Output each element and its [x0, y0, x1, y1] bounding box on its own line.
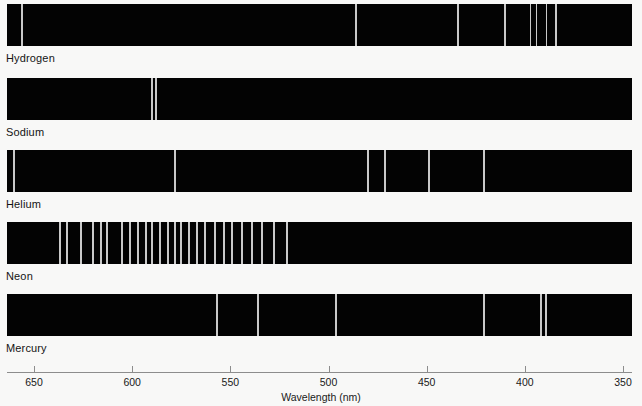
- spectral-line: [483, 150, 485, 192]
- axis-line: [7, 372, 632, 373]
- spectral-line: [257, 294, 259, 336]
- spectrum-label-hydrogen: Hydrogen: [6, 52, 55, 64]
- spectral-line: [13, 150, 15, 192]
- axis-tick-label: 450: [418, 376, 436, 388]
- spectral-line: [180, 222, 182, 264]
- spectrum-label-sodium: Sodium: [6, 126, 44, 138]
- axis-tick-label: 350: [614, 376, 632, 388]
- spectral-line: [214, 222, 216, 264]
- spectral-line: [241, 222, 243, 264]
- spectral-line: [174, 222, 176, 264]
- spectral-line: [129, 222, 131, 264]
- spectral-line: [261, 222, 263, 264]
- spectral-line: [231, 222, 233, 264]
- spectral-line: [174, 150, 176, 192]
- spectral-line: [204, 222, 206, 264]
- spectral-line: [188, 222, 190, 264]
- axis-tick-label: 400: [516, 376, 534, 388]
- spectral-line: [167, 222, 169, 264]
- axis-tick-label: 600: [123, 376, 141, 388]
- spectral-line: [367, 150, 369, 192]
- spectral-line: [159, 222, 161, 264]
- spectrum-bar-mercury: [7, 294, 632, 336]
- spectral-line: [151, 222, 153, 264]
- spectrum-label-mercury: Mercury: [6, 342, 47, 354]
- spectral-line: [540, 294, 542, 336]
- spectrum-bar-sodium: [7, 78, 632, 120]
- spectral-line: [504, 4, 506, 46]
- wavelength-axis: 650600550500450400350 Wavelength (nm): [0, 372, 642, 406]
- axis-tick: [34, 366, 35, 372]
- spectral-line: [80, 222, 82, 264]
- spectral-line: [545, 294, 547, 336]
- axis-title: Wavelength (nm): [0, 391, 642, 403]
- spectral-line: [335, 294, 337, 336]
- spectral-line: [555, 4, 557, 46]
- spectrum-bar-hydrogen: [7, 4, 632, 46]
- spectral-line: [66, 222, 68, 264]
- spectrum-bar-neon: [7, 222, 632, 264]
- spectral-line: [121, 222, 123, 264]
- spectrum-label-helium: Helium: [6, 198, 41, 210]
- spectral-line: [216, 294, 218, 336]
- spectral-line: [428, 150, 430, 192]
- axis-tick-label: 550: [222, 376, 240, 388]
- spectral-line: [223, 222, 225, 264]
- axis-tick: [427, 366, 428, 372]
- axis-tick: [525, 366, 526, 372]
- axis-tick-label: 650: [25, 376, 43, 388]
- spectrum-bar-helium: [7, 150, 632, 192]
- spectral-line: [196, 222, 198, 264]
- axis-tick: [230, 366, 231, 372]
- axis-tick: [132, 366, 133, 372]
- spectral-line: [483, 294, 485, 336]
- spectral-line: [155, 78, 157, 120]
- spectral-line: [100, 222, 102, 264]
- spectral-line: [457, 4, 459, 46]
- axis-tick: [623, 366, 624, 372]
- spectral-line: [106, 222, 108, 264]
- axis-tick: [329, 366, 330, 372]
- spectrum-label-neon: Neon: [6, 270, 33, 282]
- spectral-line: [92, 222, 94, 264]
- spectral-line: [151, 78, 153, 120]
- spectral-line: [273, 222, 275, 264]
- spectral-line: [384, 150, 386, 192]
- spectral-line: [530, 4, 531, 46]
- spectral-line: [59, 222, 61, 264]
- spectral-line: [145, 222, 147, 264]
- spectral-line: [251, 222, 253, 264]
- spectral-line: [137, 222, 139, 264]
- spectral-line: [536, 4, 537, 46]
- axis-tick-label: 500: [320, 376, 338, 388]
- spectral-line: [546, 4, 547, 46]
- spectral-line: [355, 4, 357, 46]
- spectral-line: [286, 222, 288, 264]
- spectral-line: [21, 4, 23, 46]
- spectral-lines-figure: Hydrogen Sodium Helium Neon Mercury 6506…: [0, 0, 642, 406]
